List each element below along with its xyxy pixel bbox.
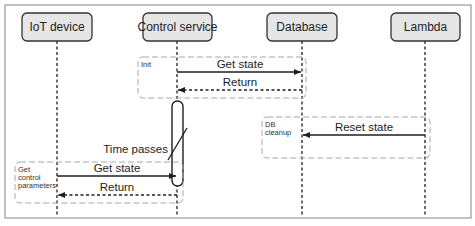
message-label: Get state	[217, 58, 264, 70]
participant-label: IoT device	[29, 20, 84, 34]
group-label: Init	[141, 60, 152, 69]
participant-label: Database	[276, 20, 328, 34]
participant-label: Lambda	[404, 20, 448, 34]
message-label: Return	[100, 181, 135, 193]
message-label: Return	[223, 76, 258, 88]
group-label: cleanup	[265, 128, 291, 137]
participant-control-service: Control service	[137, 13, 217, 41]
participant-lambda: Lambda	[391, 13, 460, 41]
participant-label: Control service	[137, 20, 217, 34]
participant-database: Database	[267, 13, 337, 41]
sequence-diagram: IoT device Control service Database Lamb…	[0, 0, 475, 226]
participant-iot-device: IoT device	[22, 13, 92, 41]
message-label: Reset state	[335, 121, 393, 133]
group-label: parameters	[18, 181, 56, 190]
time-passes-label: Time passes	[103, 143, 168, 155]
message-label: Get state	[94, 162, 141, 174]
